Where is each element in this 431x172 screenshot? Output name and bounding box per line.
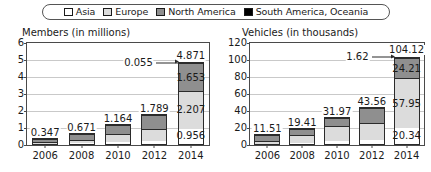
legend-item-europe: Europe (103, 7, 148, 17)
y-axis-tick-label: 100 (228, 55, 247, 65)
y-axis-tick-label: 20 (234, 123, 247, 133)
bar-segment-asia-2006 (254, 144, 280, 145)
total-value-label-2006: 11.51 (252, 124, 283, 134)
bar-segment-asia-2006 (32, 144, 58, 145)
bar-segment-south-america-oceania-2012 (141, 114, 167, 115)
legend-label-europe: Europe (115, 7, 148, 17)
x-axis-tick-label: 2014 (178, 151, 203, 161)
bar-segment-europe-2010 (324, 126, 350, 141)
y-axis-tick-mark (24, 77, 27, 78)
bar-2012[interactable] (359, 107, 385, 145)
bar-segment-north-america-2012 (359, 108, 385, 123)
bar-segment-europe-2010 (105, 134, 131, 141)
callout-label-south-america-oceania: 0.055 (123, 58, 154, 68)
bar-segment-north-america-2010 (105, 125, 131, 134)
segment-value-label-asia: 0.956 (176, 131, 205, 141)
total-value-label-2012: 43.56 (356, 97, 387, 107)
y-axis-tick-mark (24, 111, 27, 112)
bar-segment-europe-2006 (254, 141, 280, 144)
bar-segment-europe-2014: 57.95 (394, 78, 420, 127)
total-value-label-2008: 0.671 (66, 123, 97, 133)
chart-panel-members: Members (in millions) 012345620060.34720… (0, 22, 216, 172)
bar-2010[interactable] (324, 117, 350, 145)
y-axis-tick-mark (247, 77, 250, 78)
callout-arrow-south-america-oceania (156, 62, 178, 63)
y-axis-tick-label: 60 (234, 89, 247, 99)
y-axis-tick-mark (24, 145, 27, 146)
total-value-label-2010: 31.97 (322, 107, 353, 117)
x-axis-tick-label: 2012 (142, 151, 167, 161)
bar-2006[interactable] (254, 134, 280, 145)
bar-segment-europe-2014: 2.207 (178, 91, 204, 129)
segment-value-label-asia: 20.34 (392, 131, 421, 141)
bar-2010[interactable] (105, 124, 131, 145)
bar-segment-south-america-oceania-2012 (359, 107, 385, 108)
y-axis-tick-mark (24, 94, 27, 95)
bar-segment-europe-2008 (289, 135, 315, 144)
legend-label-north-america: North America (168, 7, 235, 17)
bar-segment-south-america-oceania-2014 (178, 62, 204, 63)
bar-segment-europe-2012 (359, 123, 385, 140)
y-axis-tick-mark (247, 94, 250, 95)
x-axis-tick-label: 2010 (105, 151, 130, 161)
legend-item-north-america: North America (156, 7, 235, 17)
total-value-label-2010: 1.164 (103, 114, 134, 124)
bar-2014[interactable]: 0.9562.2071.653 (178, 62, 204, 145)
plot-area-members: 012345620060.34720080.67120101.16420121.… (26, 42, 210, 146)
bar-2008[interactable] (69, 133, 95, 145)
bar-2006[interactable] (32, 138, 58, 145)
legend-label-south-america-oceania: South America, Oceania (256, 7, 369, 17)
bar-segment-south-america-oceania-2008 (69, 133, 95, 134)
bar-segment-north-america-2006 (32, 139, 58, 142)
bar-2014[interactable]: 20.3457.9524.21 (394, 57, 420, 145)
bar-segment-asia-2012 (359, 140, 385, 145)
bar-segment-south-america-oceania-2010 (105, 124, 131, 125)
segment-value-label-europe: 2.207 (176, 105, 205, 115)
y-axis-tick-mark (24, 60, 27, 61)
bar-segment-asia-2010 (324, 141, 350, 145)
x-axis-tick-label: 2012 (359, 151, 384, 161)
bar-2012[interactable] (141, 114, 167, 145)
x-axis-tick-mark (337, 145, 338, 148)
x-axis-tick-label: 2008 (69, 151, 94, 161)
y-axis-tick-label: 120 (228, 38, 247, 48)
y-axis-tick-label: 80 (234, 72, 247, 82)
x-axis-tick-label: 2008 (289, 151, 314, 161)
legend-swatch-europe (103, 8, 112, 16)
y-axis-tick-mark (247, 111, 250, 112)
bar-segment-europe-2012 (141, 129, 167, 140)
segment-value-label-north-america: 1.653 (176, 73, 205, 83)
callout-label-south-america-oceania: 1.62 (345, 52, 369, 62)
x-axis-tick-label: 2006 (32, 151, 57, 161)
bar-segment-south-america-oceania-2010 (324, 117, 350, 118)
bar-segment-north-america-2014: 24.21 (394, 58, 420, 79)
bar-segment-north-america-2008 (69, 134, 95, 140)
y-axis-tick-label: 40 (234, 106, 247, 116)
segment-value-label-europe: 57.95 (392, 99, 421, 109)
x-axis-tick-label: 2010 (324, 151, 349, 161)
y-axis-tick-mark (24, 43, 27, 44)
bar-2008[interactable] (289, 128, 315, 145)
bar-segment-asia-2008 (289, 143, 315, 145)
y-axis-tick-mark (24, 128, 27, 129)
y-axis-tick-mark (247, 145, 250, 146)
x-axis-tick-mark (371, 145, 372, 148)
legend-item-south-america-oceania: South America, Oceania (244, 7, 369, 17)
bar-segment-north-america-2012 (141, 115, 167, 130)
plot-area-vehicles: 020406080100120200611.51200819.41201031.… (249, 42, 425, 146)
bar-segment-asia-2008 (69, 143, 95, 145)
legend-label-asia: Asia (76, 7, 96, 17)
chart-legend: Asia Europe North America South America,… (42, 4, 390, 20)
x-axis-tick-mark (406, 145, 407, 148)
x-axis-tick-label: 2014 (394, 151, 419, 161)
bar-segment-south-america-oceania-2014 (394, 57, 420, 58)
x-axis-tick-mark (45, 145, 46, 148)
bar-segment-south-america-oceania-2008 (289, 128, 315, 129)
legend-swatch-south-america-oceania (244, 8, 253, 16)
x-axis-tick-mark (154, 145, 155, 148)
bar-segment-south-america-oceania-2006 (32, 138, 58, 139)
callout-arrow-south-america-oceania (372, 57, 394, 58)
bar-segment-asia-2014: 20.34 (394, 128, 420, 145)
chart-title-members: Members (in millions) (22, 28, 130, 38)
bar-segment-europe-2006 (32, 142, 58, 144)
